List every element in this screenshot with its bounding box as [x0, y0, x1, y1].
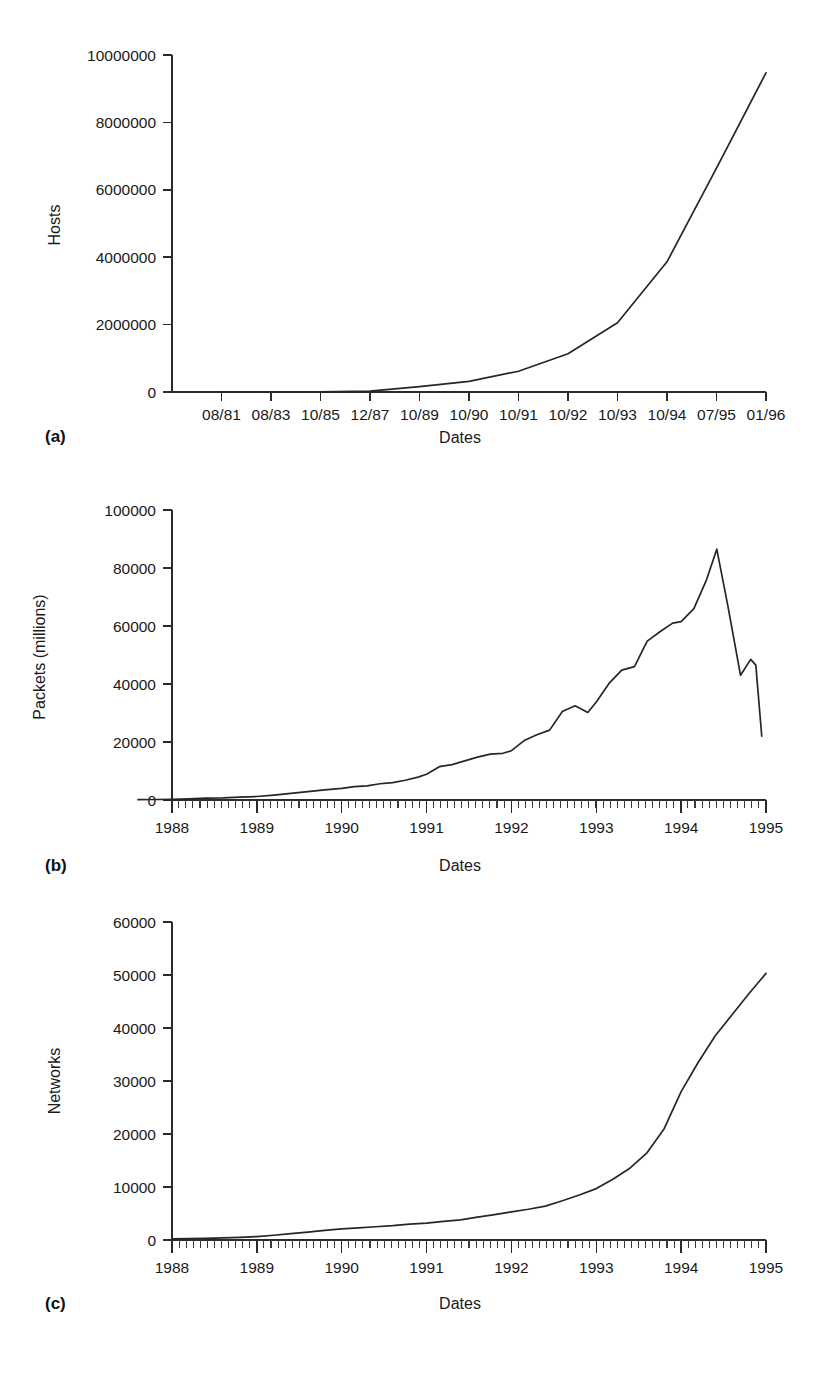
caption-strip: [0, 1352, 821, 1377]
x-tick-label: 1991: [409, 1259, 443, 1276]
x-tick-label: 1995: [749, 819, 783, 836]
y-tick-label: 60000: [113, 618, 156, 635]
y-tick-marks: [163, 55, 172, 392]
y-axis-group-b: 020000400006000080000100000 Packets (mil…: [31, 502, 172, 809]
x-tick-marks: [222, 392, 767, 401]
x-tick-label: 1993: [579, 819, 613, 836]
y-tick-labels: 0100002000030000400005000060000: [113, 914, 156, 1249]
x-axis-title: Dates: [439, 1295, 481, 1312]
y-tick-label: 4000000: [96, 249, 157, 266]
y-axis-group-c: 0100002000030000400005000060000 Networks: [46, 914, 172, 1249]
networks-series-line: [172, 973, 766, 1238]
y-axis-title: Networks: [46, 1048, 63, 1115]
y-tick-label: 0: [147, 384, 156, 401]
x-minor-ticks: [179, 1240, 759, 1248]
x-tick-label: 08/81: [202, 406, 241, 423]
y-axis-title: Hosts: [46, 205, 63, 246]
x-tick-label: 1989: [240, 1259, 274, 1276]
x-tick-label: 07/95: [697, 406, 736, 423]
y-axis-group-a: 0200000040000006000000800000010000000 Ho…: [46, 47, 172, 401]
y-tick-marks: [163, 922, 172, 1240]
x-tick-labels: 08/8108/8310/8512/8710/8910/9010/9110/92…: [202, 406, 785, 423]
x-tick-label: 1991: [409, 819, 443, 836]
figure-panel-c: 0100002000030000400005000060000 Networks…: [0, 895, 821, 1315]
x-tick-label: 1990: [324, 819, 359, 836]
x-tick-label: 10/85: [301, 406, 340, 423]
y-tick-label: 10000000: [87, 47, 156, 64]
x-minor-ticks: [172, 800, 766, 808]
panel-tag-b: (b): [45, 856, 67, 875]
figure-panel-a: 0200000040000006000000800000010000000 Ho…: [0, 20, 821, 480]
y-tick-label: 40000: [113, 1020, 156, 1037]
panel-tag-c: (c): [45, 1294, 66, 1313]
x-axis-group-c: 19881989199019911992199319941995 Dates: [155, 1240, 783, 1312]
y-tick-labels: 0200000040000006000000800000010000000: [87, 47, 156, 401]
x-tick-label: 1988: [155, 1259, 189, 1276]
panel-tag-a: (a): [45, 427, 66, 446]
x-tick-labels: 19881989199019911992199319941995: [155, 1259, 783, 1276]
y-axis-title: Packets (millions): [31, 594, 48, 719]
y-tick-labels: 020000400006000080000100000: [104, 502, 156, 809]
x-tick-label: 1994: [664, 1259, 699, 1276]
x-axis-group-b: 19881989199019911992199319941995 Dates: [155, 800, 783, 874]
x-tick-label: 10/92: [549, 406, 588, 423]
x-tick-label: 01/96: [747, 406, 786, 423]
hosts-series-line: [222, 73, 767, 392]
chart-hosts: 0200000040000006000000800000010000000 Ho…: [0, 20, 821, 480]
x-tick-label: 1990: [324, 1259, 359, 1276]
x-tick-label: 10/90: [450, 406, 489, 423]
y-tick-label: 6000000: [96, 181, 157, 198]
x-tick-label: 1994: [664, 819, 699, 836]
y-tick-label: 8000000: [96, 114, 157, 131]
x-tick-label: 10/89: [400, 406, 439, 423]
x-tick-labels: 19881989199019911992199319941995: [155, 819, 783, 836]
y-tick-label: 2000000: [96, 316, 157, 333]
x-tick-label: 10/91: [499, 406, 538, 423]
y-tick-label: 50000: [113, 967, 156, 984]
chart-packets: 020000400006000080000100000 Packets (mil…: [0, 482, 821, 892]
chart-networks: 0100002000030000400005000060000 Networks…: [0, 895, 821, 1315]
x-tick-label: 08/83: [252, 406, 291, 423]
y-tick-label: 40000: [113, 676, 156, 693]
x-axis-title: Dates: [439, 857, 481, 874]
x-axis-title: Dates: [439, 429, 481, 446]
x-tick-label: 1992: [494, 819, 528, 836]
y-tick-label: 100000: [104, 502, 156, 519]
x-tick-label: 10/93: [598, 406, 637, 423]
x-tick-label: 1993: [579, 1259, 613, 1276]
x-tick-label: 12/87: [351, 406, 390, 423]
packets-series-line: [138, 549, 762, 800]
y-tick-label: 10000: [113, 1179, 156, 1196]
y-tick-label: 0: [147, 1232, 156, 1249]
figure-panel-b: 020000400006000080000100000 Packets (mil…: [0, 482, 821, 892]
x-tick-label: 1988: [155, 819, 189, 836]
x-tick-label: 1992: [494, 1259, 528, 1276]
y-tick-label: 80000: [113, 560, 156, 577]
x-tick-label: 10/94: [648, 406, 687, 423]
y-tick-label: 60000: [113, 914, 156, 931]
y-tick-label: 20000: [113, 1126, 156, 1143]
y-tick-label: 30000: [113, 1073, 156, 1090]
y-tick-marks: [163, 510, 172, 800]
x-tick-label: 1989: [240, 819, 274, 836]
x-tick-label: 1995: [749, 1259, 783, 1276]
y-tick-label: 20000: [113, 734, 156, 751]
x-axis-group-a: 08/8108/8310/8512/8710/8910/9010/9110/92…: [172, 392, 785, 446]
